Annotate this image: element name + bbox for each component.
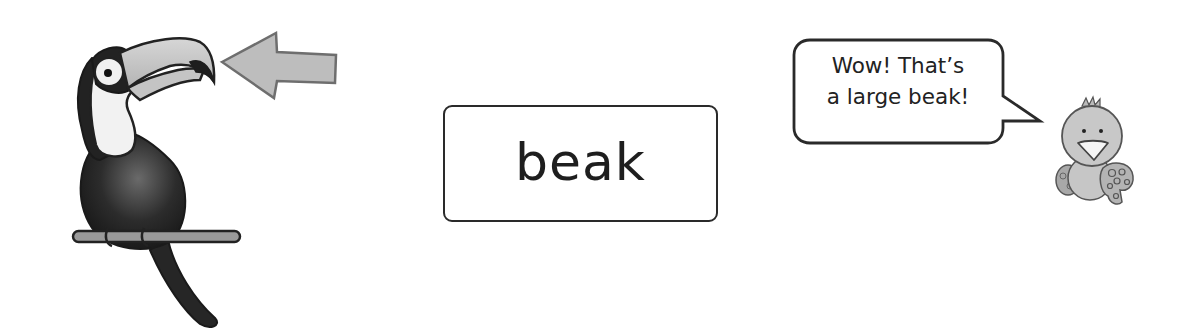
word-card: beak — [443, 105, 718, 222]
pointer-arrow — [215, 28, 343, 102]
vocabulary-word: beak — [515, 136, 646, 188]
chick-character — [1048, 92, 1143, 210]
speech-bubble-text: Wow! That’s a large beak! — [808, 50, 988, 112]
chick-icon — [1048, 92, 1143, 210]
speech-line-2: a large beak! — [808, 81, 988, 112]
arrow-left-icon — [215, 28, 343, 102]
speech-line-1: Wow! That’s — [808, 50, 988, 81]
